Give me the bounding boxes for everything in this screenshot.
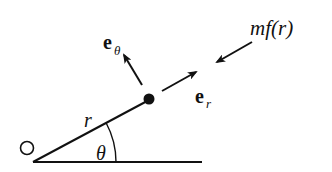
e-theta-arrow bbox=[124, 55, 142, 85]
e-r-arrow bbox=[162, 72, 196, 91]
e-theta-base: e bbox=[103, 31, 112, 53]
e-r-subscript: r bbox=[206, 96, 211, 111]
e-theta-label: eθ bbox=[103, 32, 120, 52]
particle-dot bbox=[144, 94, 155, 105]
origin-circle bbox=[21, 142, 34, 155]
force-arrow bbox=[217, 42, 252, 62]
theta-arc bbox=[106, 123, 116, 162]
e-r-label: er bbox=[195, 86, 211, 106]
radius-label: r bbox=[84, 110, 92, 130]
theta-label: θ bbox=[96, 143, 106, 163]
force-label: mf(r) bbox=[250, 18, 293, 39]
e-theta-subscript: θ bbox=[114, 43, 120, 58]
e-r-base: e bbox=[195, 85, 204, 107]
